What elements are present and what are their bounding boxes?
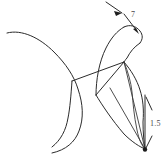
figure-container: 7 1.5 [0,0,168,161]
neck-left-outline [96,27,124,95]
inner-left-curve [52,81,72,147]
dimension-label-7: 7 [131,10,135,19]
head-top-edge [124,26,142,43]
dim15-tick-top [146,97,152,110]
right-contour-notch [124,43,140,62]
dim7-leader-upper [106,2,122,13]
wing-lower-sweep [96,95,145,149]
fan-line-mid [110,88,145,149]
dimension-label-1-5: 1.5 [150,119,161,128]
line-diagram-canvas: 7 1.5 [0,0,168,161]
dim15-tick-bottom [146,136,152,148]
convergence-node-dot [143,147,147,151]
fan-line-upper [124,62,145,149]
